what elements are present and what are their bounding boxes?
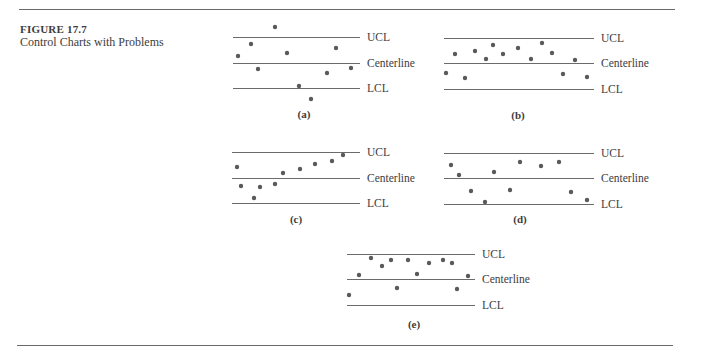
control-chart-c: UCLCenterlineLCL(c): [232, 146, 415, 226]
panel-label: (a): [298, 108, 311, 121]
lcl-label: LCL: [601, 83, 623, 95]
data-point: [258, 185, 262, 189]
data-point: [273, 25, 277, 29]
data-point: [457, 173, 461, 177]
data-point: [550, 51, 554, 55]
data-point: [427, 261, 431, 265]
data-point: [347, 293, 351, 297]
ucl-label: UCL: [367, 31, 390, 43]
bottom-rule: [17, 345, 673, 346]
data-point: [309, 97, 313, 101]
control-chart-e: UCLCenterlineLCL(e): [347, 248, 530, 331]
data-point: [380, 264, 384, 268]
lcl-label: LCL: [367, 197, 389, 209]
data-point: [539, 164, 543, 168]
data-point: [449, 163, 453, 167]
data-point: [406, 258, 410, 262]
ucl-label: UCL: [601, 147, 624, 159]
panel-label: (e): [408, 318, 421, 331]
ucl-label: UCL: [601, 32, 624, 44]
centerline-label: Centerline: [367, 57, 415, 69]
data-point: [252, 196, 256, 200]
data-point: [341, 153, 345, 157]
data-point: [557, 160, 561, 164]
data-point: [516, 46, 520, 50]
data-point: [508, 188, 512, 192]
data-point: [573, 58, 577, 62]
control-chart-b: UCLCenterlineLCL(b): [444, 32, 649, 122]
data-point: [501, 52, 505, 56]
data-point: [441, 258, 445, 262]
data-point: [235, 165, 239, 169]
centerline-label: Centerline: [482, 273, 530, 285]
data-point: [256, 67, 260, 71]
data-point: [334, 46, 338, 50]
ucl-label: UCL: [482, 248, 505, 260]
panel-label: (c): [290, 213, 303, 226]
data-point: [313, 162, 317, 166]
panel-label: (b): [511, 109, 525, 122]
data-point: [297, 84, 301, 88]
data-point: [444, 71, 448, 75]
data-point: [540, 41, 544, 45]
data-point: [281, 171, 285, 175]
centerline-label: Centerline: [367, 172, 415, 184]
control-charts-figure: UCLCenterlineLCL(a)UCLCenterlineLCL(b)UC…: [0, 0, 702, 364]
data-point: [569, 190, 573, 194]
data-point: [273, 182, 277, 186]
data-point: [389, 258, 393, 262]
panel-label: (d): [513, 213, 527, 226]
lcl-label: LCL: [367, 82, 389, 94]
data-point: [369, 256, 373, 260]
data-point: [469, 189, 473, 193]
centerline-label: Centerline: [601, 57, 649, 69]
data-point: [236, 54, 240, 58]
data-point: [466, 274, 470, 278]
ucl-label: UCL: [367, 146, 390, 158]
data-point: [473, 49, 477, 53]
data-point: [450, 261, 454, 265]
data-point: [239, 184, 243, 188]
data-point: [463, 76, 467, 80]
data-point: [349, 66, 353, 70]
data-point: [415, 272, 419, 276]
data-point: [298, 167, 302, 171]
data-point: [561, 72, 565, 76]
data-point: [249, 42, 253, 46]
data-point: [453, 52, 457, 56]
data-point: [325, 71, 329, 75]
data-point: [484, 57, 488, 61]
data-point: [357, 273, 361, 277]
data-point: [492, 170, 496, 174]
data-point: [585, 75, 589, 79]
lcl-label: LCL: [482, 299, 504, 311]
data-point: [330, 159, 334, 163]
control-chart-d: UCLCenterlineLCL(d): [444, 147, 649, 226]
data-point: [483, 200, 487, 204]
data-point: [285, 51, 289, 55]
data-point: [518, 160, 522, 164]
data-point: [585, 198, 589, 202]
control-chart-a: UCLCenterlineLCL(a): [233, 25, 415, 121]
data-point: [395, 286, 399, 290]
data-point: [529, 57, 533, 61]
data-point: [491, 43, 495, 47]
lcl-label: LCL: [601, 198, 623, 210]
data-point: [455, 287, 459, 291]
centerline-label: Centerline: [601, 172, 649, 184]
